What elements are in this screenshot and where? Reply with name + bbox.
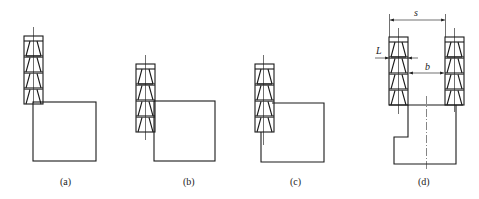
panel-label-a: (a) [60,176,71,188]
diagram-canvas: (a) (b) (c) s L b [0,0,479,199]
panel-label-b: (b) [183,176,195,188]
panel-c: (c) [255,55,324,188]
workpiece [154,101,215,161]
tool-stack [255,64,274,132]
panel-d: s L b (d) [375,7,464,188]
panel-a: (a) [24,27,96,188]
dimension-label-s: s [414,7,418,18]
dimension-label-L: L [375,45,382,56]
dimension-label-b: b [425,61,430,72]
workpiece [33,102,96,161]
panel-label-d: (d) [418,176,430,188]
workpiece-stepped [389,105,463,164]
panel-b: (b) [136,55,215,188]
panel-label-c: (c) [290,176,301,188]
